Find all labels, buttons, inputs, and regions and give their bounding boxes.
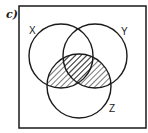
set-x-label: X bbox=[29, 25, 36, 36]
shaded-region bbox=[29, 24, 127, 88]
venn-diagram: X Y Z bbox=[0, 0, 148, 133]
set-y-label: Y bbox=[121, 26, 128, 37]
set-z-label: Z bbox=[109, 103, 115, 114]
